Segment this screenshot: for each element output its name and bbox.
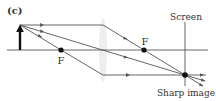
rays [20,25,206,86]
arrow-icon [123,37,128,40]
focal-label-right: F [142,36,149,47]
focal-point-left [58,47,63,52]
arrow-icon [40,23,44,27]
panel-label: (c) [7,5,23,16]
image-label: Sharp image [157,88,215,98]
arrow-icon [40,30,44,34]
image-point [182,72,188,78]
parallel-ray [20,25,203,86]
focal-label-left: F [58,55,65,66]
focal-point-right [141,47,146,52]
arrow-icon [200,73,204,76]
center-ray [20,25,205,81]
arrow-icon [126,73,130,77]
screen-label: Screen [170,12,202,22]
thin-lens-ray-diagram: (c) F F Screen Sharp image [0,0,216,101]
